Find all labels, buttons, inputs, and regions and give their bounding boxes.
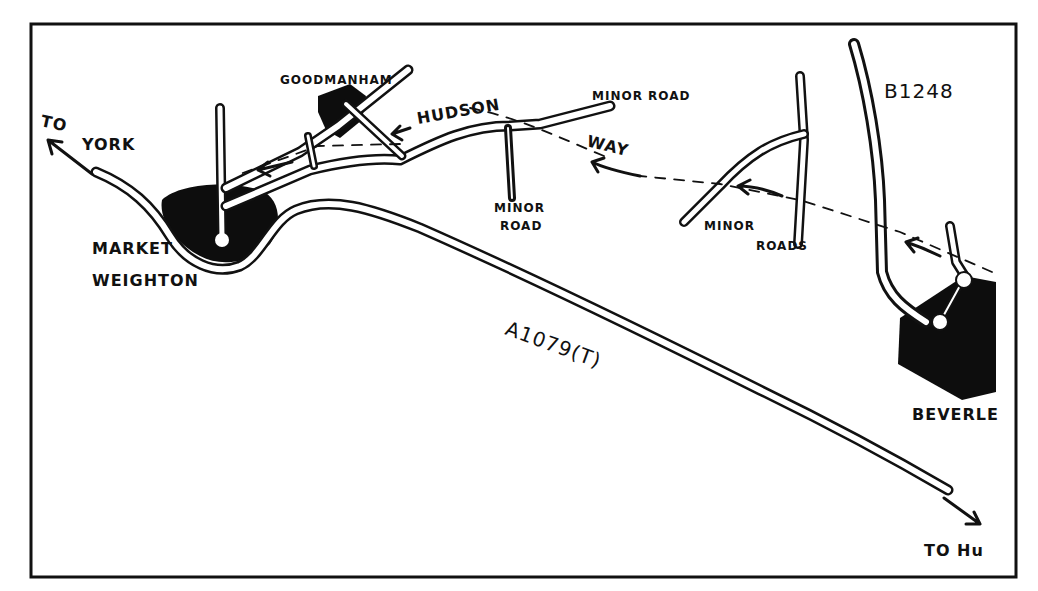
beverley-label: BEVERLE: [912, 405, 999, 424]
market-weighton-label-line1: MARKET: [92, 239, 173, 258]
route-map: TO YORK GOODMANHAM HUDSON WAY MINOR ROAD…: [0, 0, 1038, 591]
to-hull-label: TO Hu: [924, 541, 984, 560]
minor-roads-label-line2: ROADS: [756, 239, 808, 253]
minor-roads-label-line1: MINOR: [704, 219, 755, 233]
minor-road-south: [508, 128, 512, 198]
b1248-label: B1248: [884, 79, 954, 103]
minor-road-s-label-line2: ROAD: [500, 219, 542, 233]
to-york-label-line2: YORK: [81, 135, 135, 154]
minor-road-s-label-line1: MINOR: [494, 201, 545, 215]
goodmanham-label: GOODMANHAM: [280, 73, 393, 87]
minor-road-ne-label: MINOR ROAD: [592, 89, 690, 103]
north-road-market-weighton: [220, 108, 222, 238]
market-weighton-label-line2: WEIGHTON: [92, 271, 199, 290]
market-weighton-station: [215, 233, 229, 247]
